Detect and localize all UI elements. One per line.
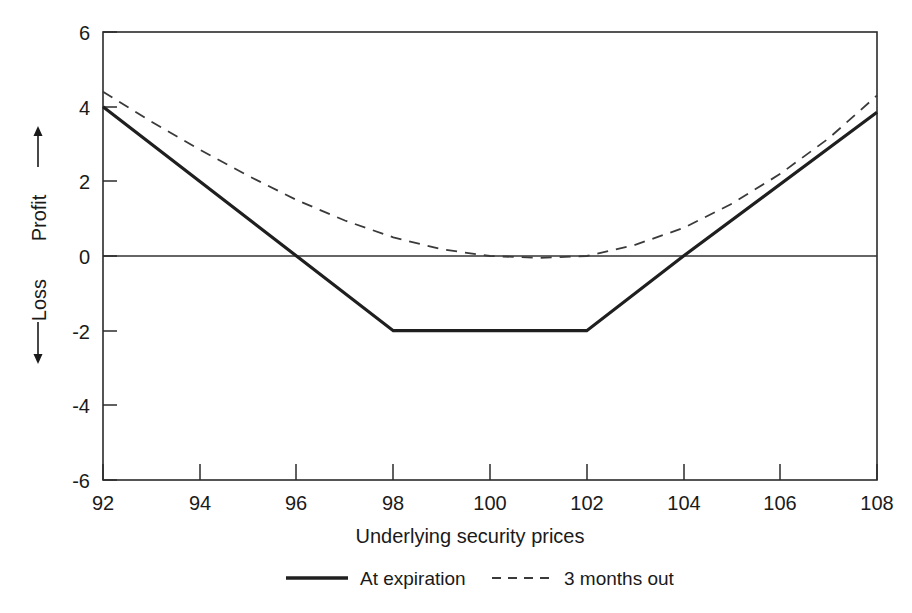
y-tick-label: -2	[72, 321, 90, 343]
y-tick-label: -4	[72, 395, 90, 417]
x-tick-label: 92	[92, 492, 114, 514]
loss-down-arrow-icon	[34, 322, 43, 364]
profit-loss-line-chart: 6 4 2 0 -2 -4 -6 92 94 96 98 100 102 104…	[0, 0, 912, 613]
y-axis-label-loss: Loss	[28, 279, 50, 321]
legend-label-at-expiration: At expiration	[360, 568, 466, 589]
x-tick-label: 98	[382, 492, 404, 514]
chart-legend: At expiration 3 months out	[286, 568, 675, 589]
x-axis-title: Underlying security prices	[356, 525, 585, 547]
x-tick-label: 102	[570, 492, 603, 514]
y-tick-label: -6	[72, 470, 90, 492]
y-tick-label: 0	[79, 246, 90, 268]
y-axis-tick-labels: 6 4 2 0 -2 -4 -6	[72, 22, 90, 492]
y-axis-label-profit: Profit	[28, 194, 50, 241]
legend-label-3-months-out: 3 months out	[564, 568, 675, 589]
profit-up-arrow-icon	[34, 126, 43, 167]
y-tick-label: 6	[79, 22, 90, 44]
chart-container: 6 4 2 0 -2 -4 -6 92 94 96 98 100 102 104…	[0, 0, 912, 613]
y-tick-label: 2	[79, 171, 90, 193]
x-axis-tick-labels: 92 94 96 98 100 102 104 106 108	[92, 492, 894, 514]
x-tick-label: 104	[667, 492, 700, 514]
y-axis-caption-group: Profit Loss	[28, 126, 50, 364]
x-tick-label: 106	[763, 492, 796, 514]
x-tick-label: 108	[860, 492, 893, 514]
y-tick-label: 4	[79, 97, 90, 119]
x-tick-label: 96	[285, 492, 307, 514]
x-tick-label: 94	[189, 492, 211, 514]
x-tick-label: 100	[473, 492, 506, 514]
